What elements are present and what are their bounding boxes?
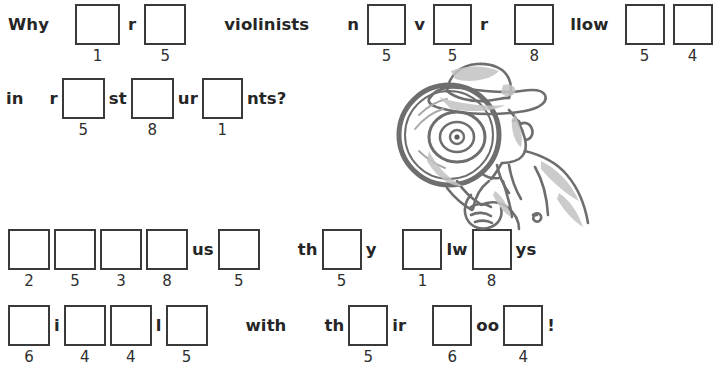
answer-slot[interactable]: 2 xyxy=(8,229,50,290)
slot-number: 4 xyxy=(518,348,528,366)
letter-box[interactable] xyxy=(514,4,554,45)
puzzle-word: lw xyxy=(446,229,467,271)
answer-slot[interactable]: 1 xyxy=(202,78,243,139)
letter-box[interactable] xyxy=(100,229,142,270)
answer-slot[interactable]: 4 xyxy=(64,305,106,366)
letter-box[interactable] xyxy=(8,305,50,346)
slot-number: 8 xyxy=(148,121,158,139)
letter-box[interactable] xyxy=(62,78,105,119)
answer-slot[interactable]: 8 xyxy=(146,229,188,290)
answer-slot[interactable]: 1 xyxy=(75,4,120,65)
slot-number: 6 xyxy=(24,348,34,366)
detective-with-magnifying-glass-illustration xyxy=(385,55,620,235)
letter-box[interactable] xyxy=(54,229,96,270)
answer-slot[interactable]: 5 xyxy=(625,4,665,65)
letter-box[interactable] xyxy=(433,4,472,45)
puzzle-word: ir xyxy=(392,305,406,347)
puzzle-word: ys xyxy=(516,229,537,271)
slot-number: 5 xyxy=(640,47,650,65)
puzzle-word: v xyxy=(414,4,425,46)
answer-row: 2538us5th5y1lw8ys xyxy=(8,229,536,290)
puzzle-word: ! xyxy=(547,305,555,347)
slot-number: 4 xyxy=(688,47,698,65)
slot-number: 3 xyxy=(116,272,126,290)
letter-box[interactable] xyxy=(144,4,186,45)
answer-slot[interactable]: 4 xyxy=(503,305,543,366)
answer-slot[interactable]: 5 xyxy=(166,305,208,366)
letter-box[interactable] xyxy=(503,305,543,346)
puzzle-word: r xyxy=(128,4,136,46)
answer-slot[interactable]: 6 xyxy=(432,305,472,366)
letter-box[interactable] xyxy=(166,305,208,346)
puzzle-word: i xyxy=(54,305,60,347)
letter-box[interactable] xyxy=(75,4,120,45)
letter-box[interactable] xyxy=(625,4,665,45)
puzzle-word: with xyxy=(246,305,287,347)
letter-box[interactable] xyxy=(367,4,406,45)
answer-slot[interactable]: 1 xyxy=(402,229,442,290)
slot-number: 8 xyxy=(162,272,172,290)
puzzle-word: in xyxy=(6,78,24,120)
letter-box[interactable] xyxy=(472,229,512,270)
question-row: inr5st8ur1nts? xyxy=(6,78,286,139)
puzzle-word: y xyxy=(366,229,377,271)
puzzle-word: llow xyxy=(570,4,608,46)
puzzle-word: n xyxy=(347,4,359,46)
answer-slot[interactable]: 8 xyxy=(472,229,512,290)
slot-number: 5 xyxy=(234,272,244,290)
slot-number: 5 xyxy=(70,272,80,290)
puzzle-word: r xyxy=(480,4,488,46)
slot-number: 6 xyxy=(448,348,458,366)
slot-number: 5 xyxy=(364,348,374,366)
slot-number: 5 xyxy=(337,272,347,290)
slot-number: 2 xyxy=(24,272,34,290)
letter-box[interactable] xyxy=(322,229,362,270)
answer-slot[interactable]: 3 xyxy=(100,229,142,290)
letter-box[interactable] xyxy=(202,78,243,119)
answer-slot[interactable]: 4 xyxy=(673,4,713,65)
slot-number: 8 xyxy=(487,272,497,290)
letter-box[interactable] xyxy=(218,229,260,270)
answer-slot[interactable]: 4 xyxy=(110,305,152,366)
puzzle-word: oo xyxy=(476,305,499,347)
puzzle-word: th xyxy=(298,229,318,271)
answer-slot[interactable]: 5 xyxy=(348,305,388,366)
slot-number: 1 xyxy=(218,121,228,139)
slot-number: 1 xyxy=(93,47,103,65)
answer-slot[interactable]: 5 xyxy=(218,229,260,290)
slot-number: 1 xyxy=(418,272,428,290)
letter-box[interactable] xyxy=(432,305,472,346)
answer-slot[interactable]: 5 xyxy=(144,4,186,65)
letter-box[interactable] xyxy=(8,229,50,270)
answer-slot[interactable]: 8 xyxy=(131,78,174,139)
puzzle-word: r xyxy=(50,78,58,120)
letter-box[interactable] xyxy=(64,305,106,346)
letter-box[interactable] xyxy=(131,78,174,119)
puzzle-word: nts? xyxy=(247,78,286,120)
letter-box[interactable] xyxy=(110,305,152,346)
slot-number: 4 xyxy=(126,348,136,366)
answer-slot[interactable]: 5 xyxy=(54,229,96,290)
letter-box[interactable] xyxy=(348,305,388,346)
puzzle-word: st xyxy=(109,78,127,120)
answer-slot[interactable]: 6 xyxy=(8,305,50,366)
letter-box[interactable] xyxy=(673,4,713,45)
puzzle-word: Why xyxy=(8,4,49,46)
puzzle-word: l xyxy=(156,305,162,347)
slot-number: 4 xyxy=(80,348,90,366)
slot-number: 5 xyxy=(182,348,192,366)
answer-row: 6i44l5withth5ir6oo4! xyxy=(8,305,555,366)
puzzle-word: us xyxy=(192,229,214,271)
answer-slot[interactable]: 5 xyxy=(62,78,105,139)
letter-box[interactable] xyxy=(146,229,188,270)
puzzle-word: violinists xyxy=(224,4,309,46)
answer-slot[interactable]: 5 xyxy=(322,229,362,290)
puzzle-word: ur xyxy=(178,78,198,120)
slot-number: 5 xyxy=(160,47,170,65)
letter-box[interactable] xyxy=(402,229,442,270)
puzzle-word: th xyxy=(324,305,344,347)
slot-number: 5 xyxy=(79,121,89,139)
